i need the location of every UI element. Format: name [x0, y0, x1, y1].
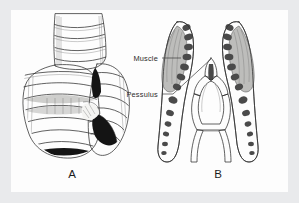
figure-plate: A [11, 10, 288, 192]
trachea [53, 14, 106, 70]
panel-b-illustration: B [158, 22, 258, 180]
muscle-label: Muscle [133, 54, 158, 63]
syrinx-illustration: A [11, 10, 288, 192]
figure-frame: A [0, 0, 299, 203]
panel-a-illustration: A [20, 14, 130, 180]
pessulus-structure [191, 58, 231, 162]
pessulus-label: Pessulus [126, 90, 158, 99]
panel-label-a: A [68, 168, 76, 180]
tracheal-rings [53, 16, 106, 65]
panel-label-b: B [214, 168, 222, 180]
